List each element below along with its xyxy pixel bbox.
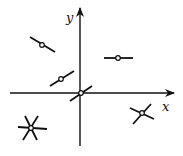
coordinate-diagram: y x [0,0,183,156]
x-axis-label: x [162,99,170,114]
upper-right-segment [104,56,133,61]
near-origin-segment [50,71,74,86]
lower-right-cross [130,104,154,124]
y-axis-label: y [65,10,74,25]
upper-left-segment [30,37,55,52]
lower-left-star [18,116,47,140]
